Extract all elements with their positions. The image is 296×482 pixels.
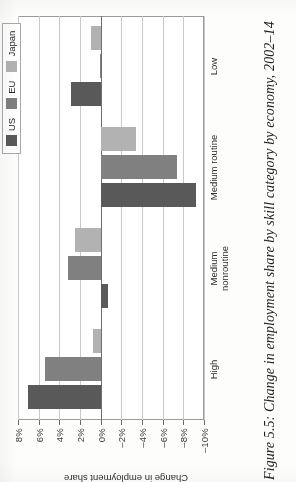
- y-axis-tick: [101, 420, 102, 425]
- y-axis-tick-label: –2%: [116, 428, 127, 448]
- bar-eu-high: [45, 358, 101, 382]
- y-axis-tick: [163, 420, 164, 425]
- bar-us-medium-nonroutine: [101, 285, 108, 309]
- y-axis-tick-label: 0%: [95, 428, 106, 442]
- legend-label: EU: [6, 81, 17, 94]
- bar-japan-medium-nonroutine: [75, 229, 101, 253]
- category-label: Medium routine: [208, 117, 244, 218]
- legend-swatch-eu: [6, 98, 17, 109]
- y-axis-tick: [80, 420, 81, 425]
- bar-eu-medium-routine: [101, 156, 177, 180]
- plot-region: 8%6%4%2%0%–2%–4%–6%–8%–10%: [18, 16, 204, 420]
- y-axis-tick-label: –4%: [137, 428, 148, 448]
- bar-groups: [18, 16, 204, 420]
- y-axis-tick-label: –6%: [157, 428, 168, 448]
- bar-us-medium-routine: [101, 184, 196, 208]
- category-label: Low: [208, 16, 244, 117]
- legend-item-japan[interactable]: Japan: [6, 31, 17, 72]
- bar-us-high: [28, 386, 100, 410]
- bar-group: [18, 218, 204, 319]
- gridline: [204, 16, 205, 420]
- category-label: Mediumnonroutine: [208, 218, 244, 319]
- chart-area: Change in employment share 8%6%4%2%0%–2%…: [0, 0, 252, 482]
- y-axis-tick-label: 6%: [33, 428, 44, 442]
- bar-japan-high: [93, 330, 100, 354]
- legend-label: US: [6, 118, 17, 131]
- bar-japan-low: [91, 27, 100, 51]
- rotated-figure-stage: Change in employment share 8%6%4%2%0%–2%…: [0, 0, 296, 482]
- figure: Change in employment share 8%6%4%2%0%–2%…: [0, 0, 296, 482]
- category-labels: HighMediumnonroutineMedium routineLow: [208, 16, 244, 420]
- y-axis-tick-label: 8%: [13, 428, 24, 442]
- y-axis-tick: [39, 420, 40, 425]
- legend-item-eu[interactable]: EU: [6, 81, 17, 109]
- legend: USEUJapan: [2, 23, 21, 154]
- y-axis-tick: [18, 420, 19, 425]
- figure-page: Change in employment share 8%6%4%2%0%–2%…: [0, 0, 296, 482]
- bar-group: [18, 117, 204, 218]
- legend-label: Japan: [6, 31, 17, 57]
- y-axis-tick: [59, 420, 60, 425]
- bar-japan-medium-routine: [101, 128, 136, 152]
- bar-group: [18, 319, 204, 420]
- y-axis-tick: [183, 420, 184, 425]
- y-axis-tick-label: 4%: [54, 428, 65, 442]
- y-axis-title: Change in employment share: [64, 473, 188, 482]
- bar-group: [18, 16, 204, 117]
- figure-caption: Figure 5.5: Change in employment share b…: [262, 0, 278, 482]
- y-axis-tick: [121, 420, 122, 425]
- bar-eu-medium-nonroutine: [68, 257, 101, 281]
- y-axis-tick: [204, 420, 205, 425]
- legend-item-us[interactable]: US: [6, 118, 17, 146]
- y-axis-tick: [142, 420, 143, 425]
- y-axis-tick-label: –10%: [199, 428, 210, 453]
- bar-us-low: [71, 83, 101, 107]
- category-label: High: [208, 319, 244, 420]
- y-axis-tick-label: –8%: [178, 428, 189, 448]
- bar-eu-low: [100, 55, 101, 79]
- y-axis-tick-label: 2%: [75, 428, 86, 442]
- legend-swatch-japan: [6, 61, 17, 72]
- legend-swatch-us: [6, 135, 17, 146]
